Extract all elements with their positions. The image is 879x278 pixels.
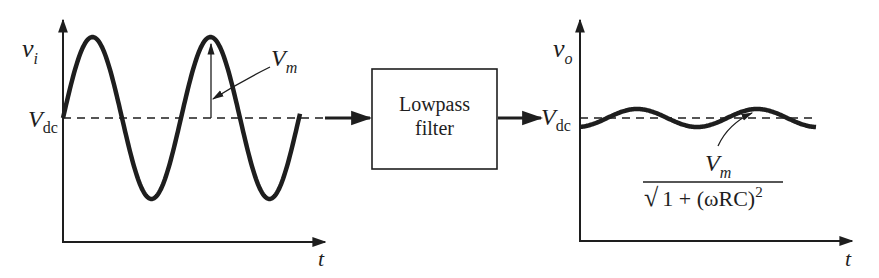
lowpass-filter-block: Lowpass filter: [372, 69, 497, 169]
output-plot: vo Vdc t Vm √1 + (ωRC)2: [541, 20, 852, 271]
lowpass-filter-diagram: vi Vdc Vm t Lowpass filter vo Vdc t Vm √…: [0, 0, 879, 278]
filter-label-line1: Lowpass: [399, 93, 470, 116]
input-dc-label: Vdc: [28, 106, 58, 136]
output-x-label: t: [845, 246, 852, 271]
input-amplitude-label: Vm: [271, 45, 297, 76]
ripple-formula: Vm √1 + (ωRC)2: [643, 150, 783, 212]
output-dc-label: Vdc: [541, 104, 571, 134]
input-y-label: vi: [22, 34, 38, 67]
formula-denominator: √1 + (ωRC)2: [644, 183, 763, 212]
output-y-label: vo: [553, 34, 573, 67]
formula-numerator: Vm: [705, 150, 731, 181]
amplitude-pointer: [213, 67, 270, 99]
input-plot: vi Vdc Vm t: [22, 20, 330, 271]
filter-label-line2: filter: [415, 117, 454, 139]
input-x-label: t: [318, 246, 325, 271]
formula-denominator-expr: 1 + (ωRC): [662, 186, 755, 211]
